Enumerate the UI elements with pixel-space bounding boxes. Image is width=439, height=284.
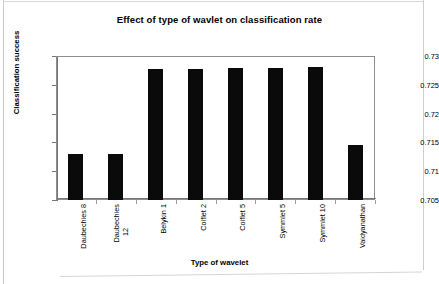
bar: [308, 67, 323, 200]
x-category-label: Belykin 1: [159, 204, 168, 234]
chart-title: Effect of type of wavlet on classificati…: [0, 14, 439, 25]
x-category-label: Symmlet 10: [318, 204, 327, 243]
bar: [348, 145, 363, 200]
x-tick-mark: [255, 200, 256, 204]
x-tick-mark: [375, 200, 376, 204]
x-tick-mark: [335, 200, 336, 204]
page-footer-ghost-text: [215, 277, 430, 284]
x-category-label: Coiflet 2: [199, 204, 208, 231]
x-tick-mark: [136, 200, 137, 204]
bar: [148, 69, 163, 200]
x-category-label: Daubechies12: [112, 204, 130, 260]
y-tick-label: 0.72: [393, 109, 439, 118]
y-tick-label: 0.715: [393, 138, 439, 147]
y-tick-label: 0.71: [393, 167, 439, 176]
x-tick-mark: [176, 200, 177, 204]
page-border-right: [423, 0, 424, 270]
bar-series: [56, 56, 375, 200]
y-tick-label: 0.705: [393, 196, 439, 205]
bar: [268, 68, 283, 200]
y-tick-label: 0.73: [393, 52, 439, 61]
x-category-label: Daubechies 8: [79, 204, 88, 249]
y-tick-label: 0.725: [393, 80, 439, 89]
bar: [108, 154, 123, 200]
y-axis-title: Classification success: [12, 13, 21, 133]
x-tick-mark: [216, 200, 217, 204]
x-category-label: Vaidyanathan: [358, 204, 367, 248]
x-tick-mark: [96, 200, 97, 204]
scanned-page: Effect of type of wavlet on classificati…: [0, 0, 439, 284]
bar: [228, 68, 243, 200]
page-border-top: [3, 1, 423, 2]
bar: [188, 69, 203, 200]
x-category-label: Symmlet 5: [278, 204, 287, 238]
x-axis-title: Type of wavelet: [0, 258, 439, 267]
bar: [68, 154, 83, 200]
x-category-label: Coiflet 5: [238, 204, 247, 231]
page-border-left: [3, 0, 4, 284]
x-tick-mark: [295, 200, 296, 204]
